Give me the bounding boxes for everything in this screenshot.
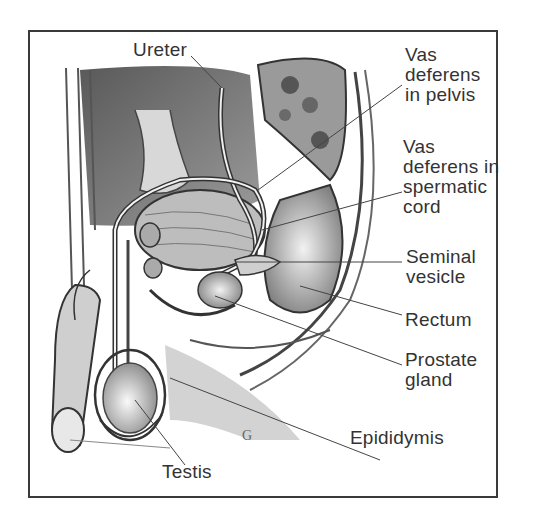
sacrum <box>258 59 346 180</box>
label-vas-deferens-pelvis: Vas deferens in pelvis <box>405 45 481 105</box>
label-prostate-gland: Prostate gland <box>405 350 477 390</box>
prostate <box>198 272 242 308</box>
svg-text:G: G <box>242 428 252 443</box>
label-testis: Testis <box>162 462 212 482</box>
rectum <box>264 185 342 313</box>
label-seminal-vesicle: Seminal vesicle <box>406 247 476 287</box>
label-epididymis: Epididymis <box>350 428 444 448</box>
label-rectum: Rectum <box>405 310 472 330</box>
label-ureter: Ureter <box>133 40 187 60</box>
label-vas-deferens-spermatic-cord: Vas deferens in spermatic cord <box>403 137 499 217</box>
testis <box>103 363 157 433</box>
